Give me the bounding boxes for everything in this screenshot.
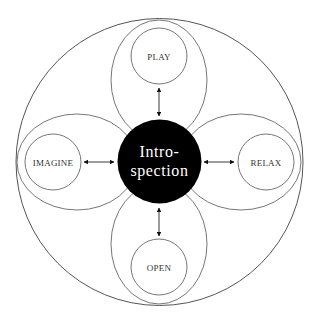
node-play-label: PLAY — [147, 52, 171, 62]
node-imagine-label: IMAGINE — [33, 158, 74, 168]
node-play: PLAY — [131, 28, 187, 84]
node-open-label: OPEN — [147, 263, 172, 273]
node-imagine: IMAGINE — [25, 134, 81, 190]
node-open: OPEN — [131, 239, 187, 295]
center-hub: Intro- spection — [118, 120, 202, 204]
center-label-line1: Intro- — [139, 143, 179, 160]
center-label-line2: spection — [130, 162, 188, 180]
introspection-diagram: PLAY RELAX OPEN IMAGINE Intr — [0, 0, 317, 324]
node-relax: RELAX — [238, 134, 294, 190]
node-relax-label: RELAX — [251, 158, 282, 168]
